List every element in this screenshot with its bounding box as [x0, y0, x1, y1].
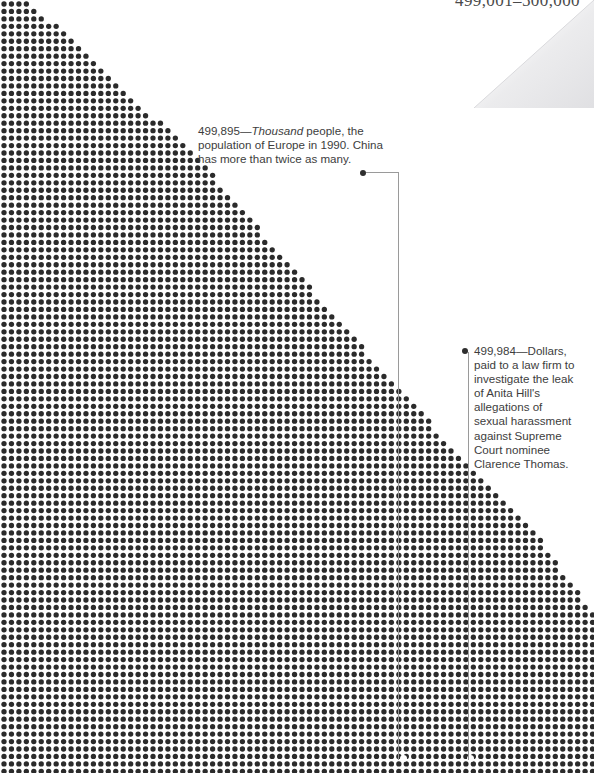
- running-head: 499,001–500,000: [455, 0, 580, 11]
- infographic-page: 499,001–500,000 499,895—Thousand people,…: [0, 0, 594, 773]
- leader-line-horizontal-europe-population: [366, 172, 398, 173]
- leader-line-vertical-europe-population: [398, 172, 399, 760]
- annotation-anita-hill-value: 499,984: [474, 344, 516, 357]
- annotation-anita-hill-dollars: 499,984—Dollars, paid to a law firm to i…: [474, 344, 578, 471]
- annotation-europe-population: 499,895—Thousand people, the population …: [198, 124, 394, 166]
- annotation-europe-dash: —: [240, 124, 252, 137]
- leader-line-vertical-anita-hill-dollars: [468, 352, 469, 760]
- annotation-anita-hill-dash: —: [516, 344, 528, 357]
- annotation-anita-hill-text: Dollars, paid to a law firm to investiga…: [474, 344, 575, 470]
- leader-bullet-europe-population: [360, 170, 366, 176]
- leader-bullet-anita-hill-dollars: [462, 348, 468, 354]
- highlighted-dot-europe-population: [400, 755, 407, 762]
- annotation-europe-value: 499,895: [198, 124, 240, 137]
- annotation-europe-emphasis: Thousand: [252, 124, 304, 137]
